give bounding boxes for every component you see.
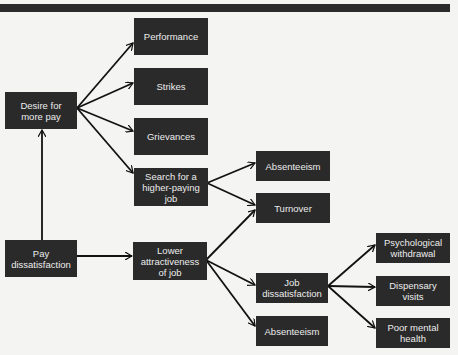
node-strikes: Strikes: [134, 68, 208, 105]
arrow-search-to-absenteeism: [207, 163, 255, 183]
node-absenteeism-top: Absenteeism: [256, 151, 330, 181]
node-search-higher-paying-job: Search for a higher-paying job: [134, 168, 208, 206]
node-pay-dissatisfaction: Pay dissatisfaction: [5, 240, 77, 277]
arrow-lower-to-jobdissat: [206, 260, 255, 285]
node-turnover: Turnover: [256, 193, 330, 223]
arrow-lower-to-absenteeism: [206, 260, 255, 326]
node-lower-attractiveness-of-job: Lower attractiveness of job: [133, 242, 207, 280]
node-performance: Performance: [134, 18, 208, 55]
node-grievances: Grievances: [134, 118, 208, 155]
node-job-dissatisfaction: Job dissatisfaction: [256, 273, 328, 303]
arrow-jobdissat-to-psych: [328, 245, 375, 286]
arrow-lower-to-turnover: [206, 210, 255, 260]
node-poor-mental-health: Poor mental health: [376, 318, 450, 348]
node-desire-for-more-pay: Desire for more pay: [5, 92, 77, 129]
arrow-desire-to-strikes: [77, 83, 133, 108]
arrow-jobdissat-to-mentalhealth: [328, 286, 375, 328]
arrow-search-to-turnover: [207, 183, 255, 205]
node-psychological-withdrawal: Psychological withdrawal: [376, 233, 450, 263]
node-absenteeism-bottom: Absenteeism: [256, 316, 328, 346]
arrow-desire-to-performance: [77, 43, 133, 108]
arrow-desire-to-search: [77, 108, 133, 173]
arrow-desire-to-grievances: [77, 108, 133, 131]
node-dispensary-visits: Dispensary visits: [376, 276, 450, 306]
arrow-jobdissat-to-dispensary: [328, 286, 375, 287]
